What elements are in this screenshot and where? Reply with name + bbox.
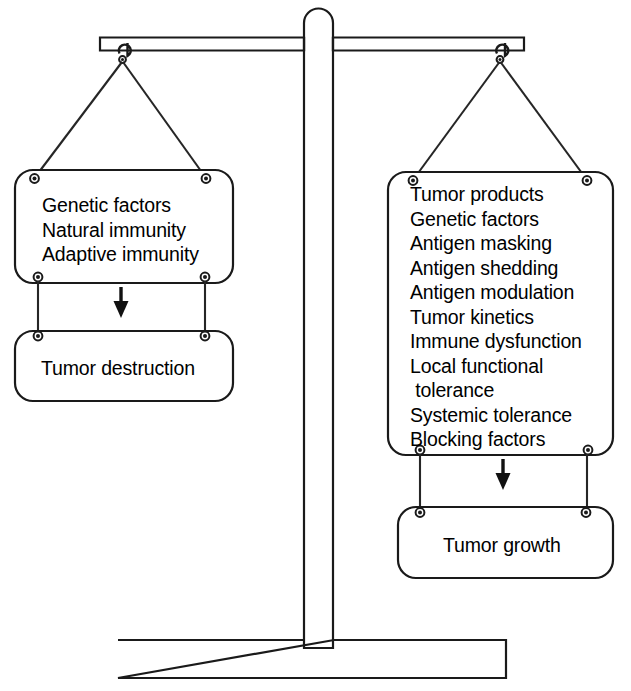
right-item-2: Antigen masking [410, 232, 552, 254]
right-item-5: Tumor kinetics [410, 306, 534, 328]
right-item-10: Blocking factors [410, 428, 546, 450]
left-item-2: Adaptive immunity [42, 243, 199, 265]
right-item-1: Genetic factors [410, 208, 539, 230]
right-item-4: Antigen modulation [410, 281, 574, 303]
right-item-6: Immune dysfunction [410, 330, 582, 352]
right-item-8: tolerance [410, 379, 494, 401]
left-outcome-label: Tumor destruction [41, 357, 195, 379]
right-outcome-label: Tumor growth [443, 534, 561, 556]
right-down-arrow [496, 459, 511, 490]
balance-diagram: Genetic factors Natural immunity Adaptiv… [0, 0, 631, 691]
left-factors-panel: Genetic factors Natural immunity Adaptiv… [15, 170, 233, 283]
right-factors-panel: Tumor products Genetic factors Antigen m… [388, 172, 613, 455]
left-item-1: Natural immunity [42, 219, 186, 241]
balance-post [304, 9, 333, 649]
balance-scale-graphic: Genetic factors Natural immunity Adaptiv… [0, 0, 631, 691]
right-item-9: Systemic tolerance [410, 404, 572, 426]
tumor-destruction-box: Tumor destruction [15, 331, 233, 401]
tumor-growth-box: Tumor growth [398, 507, 613, 578]
left-suspension-strings [35, 62, 207, 178]
right-item-3: Antigen shedding [410, 257, 558, 279]
left-item-0: Genetic factors [42, 194, 171, 216]
right-suspension-strings [413, 62, 587, 180]
right-item-7: Local functional [410, 355, 543, 377]
left-down-arrow [114, 287, 129, 318]
right-item-0: Tumor products [410, 183, 544, 205]
